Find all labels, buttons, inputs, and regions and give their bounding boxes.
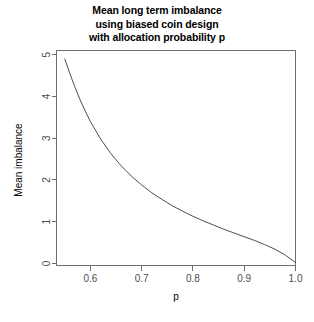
figure-canvas: Mean long term imbalance using biased co… [0, 0, 314, 322]
y-tick-label: 1 [41, 218, 52, 224]
y-tick-label: 5 [41, 51, 52, 57]
y-axis-title: Mean imbalance [13, 123, 24, 197]
x-axis-ticks: 0.60.70.80.91.0 [83, 266, 302, 284]
chart-plot-area: 0.60.70.80.91.0 012345 p Mean imbalance [0, 0, 314, 322]
axis-group: 0.60.70.80.91.0 012345 [41, 51, 303, 284]
x-tick-label: 0.9 [237, 273, 251, 284]
y-axis-ticks: 012345 [41, 51, 57, 266]
y-tick-label: 2 [41, 177, 52, 183]
data-series-group [65, 59, 296, 263]
x-axis-title: p [173, 291, 179, 302]
x-tick-label: 0.8 [186, 273, 200, 284]
y-tick-label: 4 [41, 93, 52, 99]
x-tick-label: 0.6 [83, 273, 97, 284]
y-tick-label: 3 [41, 135, 52, 141]
y-tick-label: 0 [41, 260, 52, 266]
plot-box-frame [57, 51, 296, 266]
x-tick-label: 1.0 [289, 273, 303, 284]
x-tick-label: 0.7 [135, 273, 149, 284]
imbalance-curve [65, 59, 296, 263]
